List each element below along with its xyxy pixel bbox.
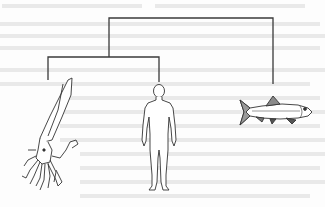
tree-svg <box>0 0 325 207</box>
root-branch <box>109 18 273 84</box>
squid-icon <box>22 78 78 190</box>
inner-branch <box>48 57 159 82</box>
tree-branches <box>48 18 273 84</box>
fish-icon <box>240 96 312 125</box>
cladogram-figure <box>0 0 325 207</box>
human-icon <box>142 85 176 191</box>
